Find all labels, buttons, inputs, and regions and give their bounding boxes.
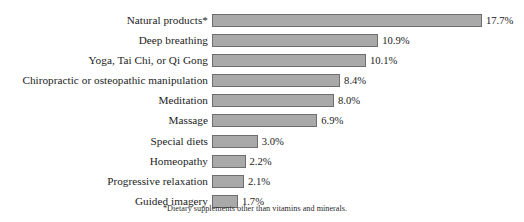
bar-category-label: Meditation <box>8 94 212 107</box>
bar <box>212 34 378 47</box>
bar-value-label: 2.1% <box>248 175 270 188</box>
bar-category-label: Special diets <box>8 135 212 148</box>
bar-row: Homeopathy2.2% <box>0 155 524 175</box>
bar-value-label: 3.0% <box>262 135 284 148</box>
bar-track: 6.9% <box>212 114 343 127</box>
bar <box>212 94 334 107</box>
bar-value-label: 10.1% <box>370 54 397 67</box>
bar-category-label: Progressive relaxation <box>8 175 212 188</box>
bar-track: 2.1% <box>212 175 270 188</box>
bar-value-label: 17.7% <box>486 14 513 27</box>
bar-track: 3.0% <box>212 135 284 148</box>
bar-row: Massage6.9% <box>0 114 524 134</box>
bar-value-label: 6.9% <box>321 114 343 127</box>
bar <box>212 114 317 127</box>
bar <box>212 54 366 67</box>
bar <box>212 175 244 188</box>
bar-value-label: 10.9% <box>382 34 409 47</box>
bar-value-label: 8.4% <box>344 74 366 87</box>
bar-category-label: Homeopathy <box>8 155 212 168</box>
bar-category-label: Yoga, Tai Chi, or Qi Gong <box>8 54 212 67</box>
bar <box>212 14 482 27</box>
chart-footnote: *Dietary supplements other than vitamins… <box>0 203 524 214</box>
bar-row: Deep breathing10.9% <box>0 34 524 54</box>
bar-row: Natural products*17.7% <box>0 14 524 34</box>
bar-value-label: 8.0% <box>338 94 360 107</box>
bar-track: 8.4% <box>212 74 366 87</box>
chart-plot-area: Natural products*17.7%Deep breathing10.9… <box>0 14 524 215</box>
bar-row: Special diets3.0% <box>0 135 524 155</box>
bar-track: 8.0% <box>212 94 360 107</box>
bar-chart-figure: Natural products*17.7%Deep breathing10.9… <box>0 0 524 222</box>
bar-row: Yoga, Tai Chi, or Qi Gong10.1% <box>0 54 524 74</box>
bar-track: 2.2% <box>212 155 272 168</box>
bar-category-label: Natural products* <box>8 14 212 27</box>
bar-category-label: Chiropractic or osteopathic manipulation <box>8 74 212 87</box>
bar-track: 17.7% <box>212 14 513 27</box>
bar <box>212 74 340 87</box>
bar <box>212 135 258 148</box>
bar-row: Progressive relaxation2.1% <box>0 175 524 195</box>
bar-value-label: 2.2% <box>250 155 272 168</box>
bar-track: 10.9% <box>212 34 410 47</box>
bar-row: Chiropractic or osteopathic manipulation… <box>0 74 524 94</box>
bar-category-label: Deep breathing <box>8 34 212 47</box>
bar <box>212 155 246 168</box>
bar-row: Meditation8.0% <box>0 94 524 114</box>
bar-track: 10.1% <box>212 54 397 67</box>
bar-category-label: Massage <box>8 114 212 127</box>
